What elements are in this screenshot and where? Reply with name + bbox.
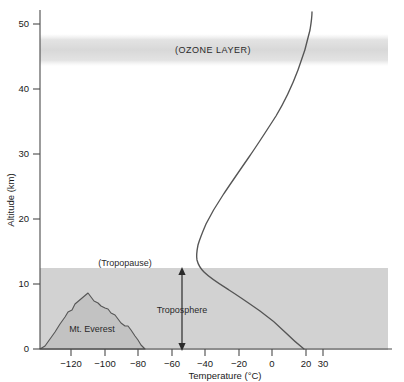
mt-everest-label: Mt. Everest [69,324,115,334]
x-tick-label-n20: −20 [231,358,247,369]
tropopause-label: (Tropopause) [98,258,152,268]
atmosphere-temperature-profile-figure: 0 10 20 30 40 50 −120 −100 −80 −60 −40 −… [0,0,404,382]
x-tick-label-0: 0 [269,358,274,369]
x-tick-label-n80: −80 [130,358,146,369]
y-tick-label-40: 40 [18,83,29,94]
y-tick-label-30: 30 [18,148,29,159]
x-axis-title: Temperature (°C) [189,370,262,381]
y-tick-label-10: 10 [18,278,29,289]
y-tick-label-20: 20 [18,213,29,224]
x-tick-label-20: 20 [301,358,312,369]
x-tick-label-n40: −40 [197,358,213,369]
y-tick-label-50: 50 [18,18,29,29]
x-tick-label-n120: −120 [60,358,81,369]
x-tick-label-n60: −60 [164,358,180,369]
chart-canvas: 0 10 20 30 40 50 −120 −100 −80 −60 −40 −… [0,0,404,382]
y-tick-label-0: 0 [24,343,29,354]
x-tick-label-n100: −100 [94,358,115,369]
ozone-layer-label: (OZONE LAYER) [175,45,251,55]
y-axis-title: Altitude (km) [5,173,16,226]
x-tick-label-30: 30 [318,358,329,369]
